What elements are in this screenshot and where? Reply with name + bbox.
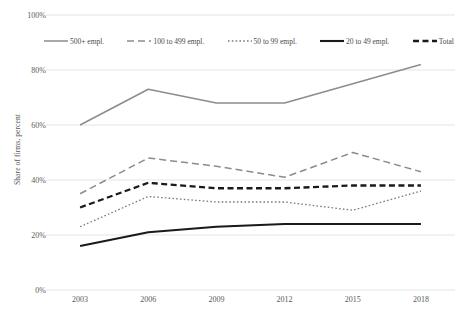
y-axis-tick-label: 0%: [8, 286, 46, 295]
legend-item[interactable]: 20 to 49 empl.: [320, 37, 389, 46]
plot-area: [0, 0, 464, 322]
series-line: [80, 183, 421, 208]
y-axis-tick-label: 40%: [8, 176, 46, 185]
chart-legend: 500+ empl.100 to 499 empl.50 to 99 empl.…: [44, 34, 454, 48]
line-chart: Share of firms, percent 0%20%40%60%80%10…: [0, 0, 464, 322]
x-axis-tick-label: 2006: [118, 295, 178, 304]
y-axis-tick-label: 60%: [8, 121, 46, 130]
y-axis-tick-label: 80%: [8, 66, 46, 75]
legend-swatch-icon: [413, 37, 437, 45]
y-axis-ticks: 0%20%40%60%80%100%: [0, 0, 46, 322]
x-axis-tick-label: 2018: [391, 295, 451, 304]
legend-item-label: 100 to 499 empl.: [153, 37, 204, 46]
legend-item-label: 50 to 99 empl.: [254, 37, 297, 46]
legend-item-label: 20 to 49 empl.: [346, 37, 389, 46]
x-axis-tick-label: 2015: [323, 295, 383, 304]
series-line: [80, 65, 421, 126]
series-line: [80, 191, 421, 227]
y-axis-tick-label: 20%: [8, 231, 46, 240]
legend-swatch-icon: [320, 37, 344, 45]
x-axis-tick-label: 2009: [186, 295, 246, 304]
legend-item-label: 500+ empl.: [70, 37, 104, 46]
legend-item[interactable]: Total: [413, 37, 454, 46]
legend-swatch-icon: [44, 37, 68, 45]
legend-item[interactable]: 50 to 99 empl.: [228, 37, 297, 46]
legend-swatch-icon: [127, 37, 151, 45]
x-axis-tick-label: 2003: [50, 295, 110, 304]
legend-item-label: Total: [439, 37, 454, 46]
legend-swatch-icon: [228, 37, 252, 45]
legend-item[interactable]: 500+ empl.: [44, 37, 104, 46]
legend-item[interactable]: 100 to 499 empl.: [127, 37, 204, 46]
x-axis-tick-label: 2012: [255, 295, 315, 304]
y-axis-tick-label: 100%: [8, 11, 46, 20]
